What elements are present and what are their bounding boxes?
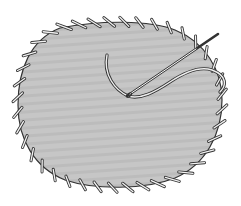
- whipstitch-illustration: [0, 0, 241, 206]
- illustration: Whipstitch (overcast stitch) around the …: [0, 0, 241, 206]
